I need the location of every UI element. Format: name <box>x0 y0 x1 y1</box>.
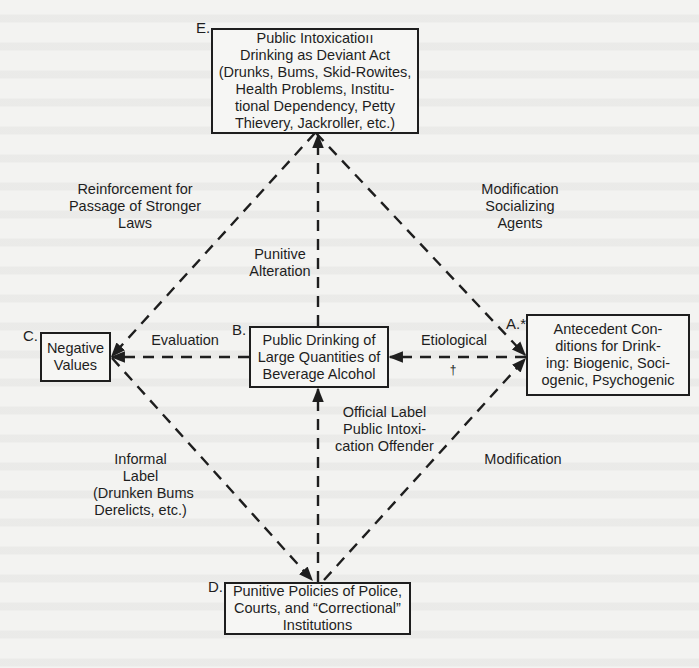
label-punitive-alteration: Punitive Alteration <box>245 246 315 280</box>
label-line: Modification <box>478 451 568 468</box>
node-a-antecedent-conditions: Antecedent Con- ditions for Drink- ing: … <box>526 314 690 396</box>
node-e-letter: E. <box>196 19 210 36</box>
node-b-line: Beverage Alcohol <box>263 366 376 383</box>
node-d-line: Courts, and “Correctional” <box>234 600 401 617</box>
node-c-negative-values: Negative Values <box>40 332 111 382</box>
label-line: Punitive <box>245 246 315 263</box>
label-modification-socializing-agents: Modification Socializing Agents <box>470 181 570 232</box>
label-line: Evaluation <box>145 332 225 349</box>
label-line: Derelicts, etc.) <box>93 502 188 519</box>
label-line: Informal <box>93 451 188 468</box>
edge-e-to-a <box>316 133 525 355</box>
node-b-public-drinking: Public Drinking of Large Quantities of B… <box>249 326 389 388</box>
edge-d-to-a <box>324 359 525 580</box>
node-a-letter: A.* <box>506 315 526 332</box>
label-reinforcement: Reinforcement for Passage of Stronger La… <box>60 181 210 232</box>
label-line: Socializing <box>470 198 570 215</box>
label-etiological: Etiological <box>414 332 494 349</box>
label-official-label: Official Label Public Intoxi- cation Off… <box>332 404 437 455</box>
node-b-line: Public Drinking of <box>263 332 376 349</box>
node-d-letter: D. <box>208 578 223 595</box>
node-e-line: Health Problems, Institu- <box>236 81 395 98</box>
node-e-public-intoxication: Public Intoxicatioıı Drinking as Deviant… <box>211 28 419 134</box>
label-line: Passage of Stronger <box>60 198 210 215</box>
node-c-line: Values <box>54 357 97 374</box>
label-line: Agents <box>470 215 570 232</box>
label-dagger: † <box>448 362 458 379</box>
node-a-line: Antecedent Con- <box>554 321 663 338</box>
label-line: Etiological <box>414 332 494 349</box>
label-line: Laws <box>60 215 210 232</box>
node-b-letter: B. <box>232 321 246 338</box>
node-a-line: ogenic, Psychogenic <box>542 372 675 389</box>
node-c-letter: C. <box>23 327 38 344</box>
node-a-line: ditions for Drink- <box>555 338 661 355</box>
node-a-line: ing: Biogenic, Soci- <box>546 355 670 372</box>
edge-e-to-c <box>112 133 315 356</box>
node-c-line: Negative <box>47 340 104 357</box>
node-e-line: tional Dependency, Petty <box>235 98 395 115</box>
label-line: (Drunken Bums <box>93 485 188 502</box>
node-e-line: (Drunks, Bums, Skid-Rowites, <box>219 64 412 81</box>
node-d-punitive-policies: Punitive Policies of Police, Courts, and… <box>224 582 411 635</box>
node-e-line: Public Intoxicatioıı <box>257 30 374 47</box>
node-d-line: Punitive Policies of Police, <box>233 583 402 600</box>
label-line: Official Label <box>332 404 437 421</box>
label-modification: Modification <box>478 451 568 468</box>
label-informal-label: Informal Label (Drunken Bums Derelicts, … <box>93 451 188 519</box>
node-d-line: Institutions <box>283 617 352 634</box>
label-line: Public Intoxi- <box>332 421 437 438</box>
node-e-line: Thievery, Jackroller, etc.) <box>235 115 395 132</box>
node-b-line: Large Quantities of <box>258 349 381 366</box>
label-evaluation: Evaluation <box>145 332 225 349</box>
node-e-line: Drinking as Deviant Act <box>240 47 390 64</box>
label-line: Modification <box>470 181 570 198</box>
label-line: Label <box>93 468 188 485</box>
label-line: Reinforcement for <box>60 181 210 198</box>
label-line: cation Offender <box>332 438 437 455</box>
label-line: Alteration <box>245 263 315 280</box>
